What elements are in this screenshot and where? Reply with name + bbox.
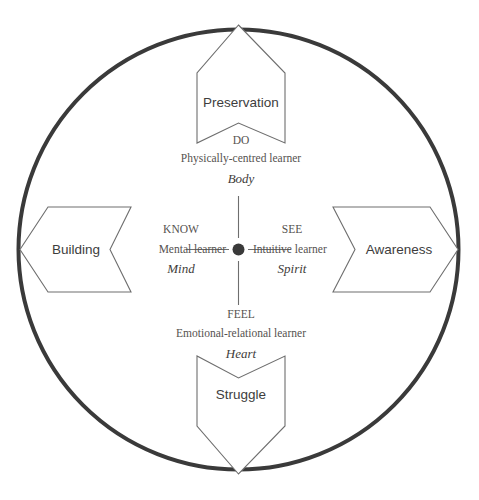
radial-essence-body: Body — [228, 171, 255, 186]
quadrant-arrow-right[interactable]: Awareness — [333, 207, 458, 292]
radial-text-bottom: FEEL Emotional-relational learner Heart — [176, 308, 306, 361]
arrow-label-awareness: Awareness — [366, 242, 433, 257]
radial-verb-feel: FEEL — [227, 308, 254, 320]
centre-hub-dot — [233, 244, 245, 256]
radial-verb-see: SEE — [282, 223, 302, 235]
arrow-shape-preservation — [197, 25, 285, 143]
radial-learner-physically-centred: Physically-centred learner — [181, 152, 302, 165]
four-quadrant-diagram: Preservation DO Physically-centred learn… — [0, 0, 479, 500]
arrow-label-preservation: Preservation — [203, 95, 279, 110]
radial-verb-know: KNOW — [163, 223, 199, 235]
quadrant-arrow-bottom[interactable]: Struggle — [197, 356, 285, 474]
radial-verb-do: DO — [233, 134, 250, 146]
radial-essence-spirit: Spirit — [278, 261, 307, 276]
radial-learner-mental: Mental learner — [159, 243, 227, 255]
arrow-label-struggle: Struggle — [216, 387, 266, 402]
quadrant-arrow-top[interactable]: Preservation — [197, 25, 285, 143]
diagram-canvas: Preservation DO Physically-centred learn… — [0, 0, 479, 500]
radial-text-left: KNOW Mental learner Mind — [159, 223, 227, 276]
radial-essence-mind: Mind — [166, 261, 195, 276]
arrow-label-building: Building — [52, 242, 100, 257]
arrow-shape-struggle — [197, 356, 285, 474]
radial-learner-intuitive: Intuitive learner — [253, 243, 327, 255]
radial-learner-emotional-relational: Emotional-relational learner — [176, 327, 306, 339]
quadrant-arrow-left[interactable]: Building — [20, 207, 131, 292]
radial-essence-heart: Heart — [225, 346, 257, 361]
radial-text-right: SEE Intuitive learner Spirit — [253, 223, 327, 276]
